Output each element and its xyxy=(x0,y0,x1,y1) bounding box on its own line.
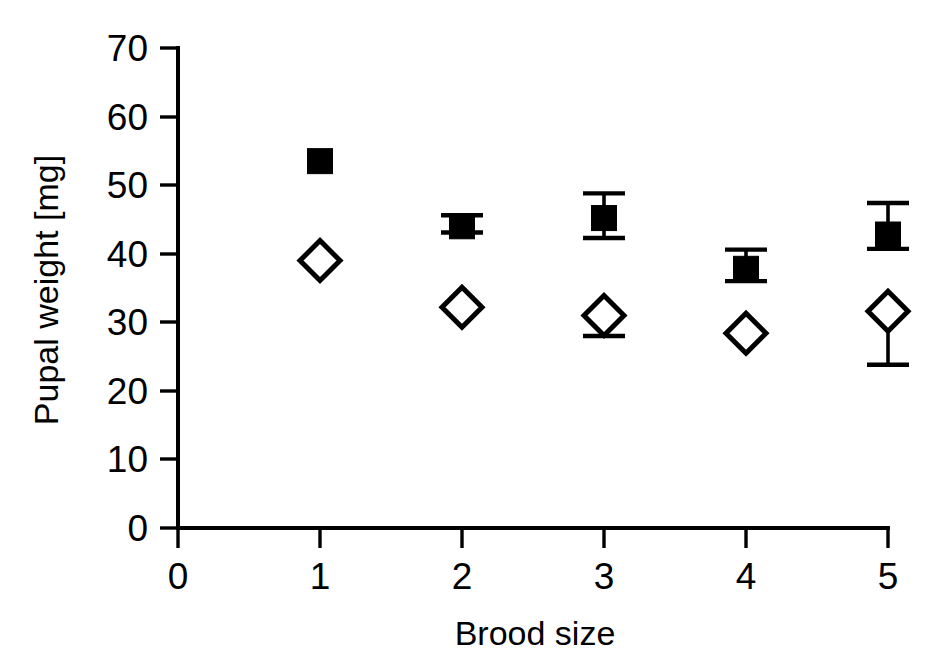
x-tick-label-2: 2 xyxy=(452,556,473,597)
data-point-filled-square-4 xyxy=(725,250,767,282)
x-axis-ticks xyxy=(178,528,888,548)
x-tick-label-3: 3 xyxy=(594,556,615,597)
data-point-filled-square-3 xyxy=(583,193,625,238)
marker-open-diamond xyxy=(442,287,482,327)
y-tick-label-70: 70 xyxy=(107,28,148,69)
marker-open-diamond xyxy=(868,291,908,331)
x-tick-label-4: 4 xyxy=(736,556,757,597)
marker-filled-square xyxy=(592,206,617,231)
marker-open-diamond xyxy=(300,241,340,281)
y-tick-label-20: 20 xyxy=(107,371,148,412)
marker-open-diamond xyxy=(726,313,766,353)
x-tick-label-1: 1 xyxy=(310,556,331,597)
y-axis-title: Pupal weight [mg] xyxy=(27,155,65,425)
y-axis-tick-labels: 70 60 50 40 30 20 10 0 xyxy=(107,28,148,549)
data-point-filled-square-2 xyxy=(441,214,483,239)
chart-figure: 70 60 50 40 30 20 10 0 0 1 2 3 4 5 xyxy=(0,0,943,671)
marker-filled-square xyxy=(734,256,759,281)
y-tick-label-60: 60 xyxy=(107,97,148,138)
marker-open-diamond xyxy=(584,295,624,335)
x-axis-tick-labels: 0 1 2 3 4 5 xyxy=(168,556,899,597)
x-tick-label-0: 0 xyxy=(168,556,189,597)
data-point-open-diamond-5 xyxy=(867,291,909,364)
data-point-filled-square-1 xyxy=(308,149,333,174)
data-point-open-diamond-3 xyxy=(583,295,625,336)
data-points-layer xyxy=(300,149,909,365)
data-point-open-diamond-1 xyxy=(300,241,340,281)
marker-filled-square xyxy=(308,149,333,174)
x-axis-title: Brood size xyxy=(455,614,616,652)
y-tick-label-0: 0 xyxy=(127,508,148,549)
marker-filled-square xyxy=(450,214,475,239)
data-point-open-diamond-4 xyxy=(726,313,766,353)
data-point-open-diamond-2 xyxy=(442,287,482,327)
y-tick-label-10: 10 xyxy=(107,439,148,480)
data-point-filled-square-5 xyxy=(867,203,909,249)
y-axis-ticks xyxy=(160,48,178,528)
y-tick-label-40: 40 xyxy=(107,234,148,275)
marker-filled-square xyxy=(876,222,901,247)
y-tick-label-30: 30 xyxy=(107,302,148,343)
scatter-plot-svg: 70 60 50 40 30 20 10 0 0 1 2 3 4 5 xyxy=(0,0,943,671)
y-tick-label-50: 50 xyxy=(107,165,148,206)
x-tick-label-5: 5 xyxy=(878,556,899,597)
